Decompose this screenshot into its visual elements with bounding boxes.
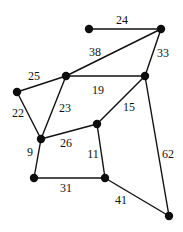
edge-weight-label: 26 <box>60 136 72 150</box>
weighted-graph-diagram: 243833251922231526911314162 <box>0 0 183 232</box>
edge-weight-label: 19 <box>92 83 104 97</box>
graph-node-n6 <box>37 135 45 143</box>
graph-node-n3 <box>62 72 70 80</box>
edge-weight-label: 33 <box>157 46 169 60</box>
graph-node-n1 <box>85 25 93 33</box>
graph-node-n9 <box>101 174 109 182</box>
edge-weight-label: 23 <box>59 101 71 115</box>
edge-weight-label: 38 <box>89 45 101 59</box>
graph-node-n7 <box>93 120 101 128</box>
edge-n5-n10 <box>145 76 169 216</box>
graph-node-n2 <box>157 25 165 33</box>
edge-weight-label: 15 <box>123 100 135 114</box>
edge-weight-label: 31 <box>60 181 72 195</box>
edge-weight-label: 9 <box>27 145 33 159</box>
edge-weight-label: 11 <box>87 147 99 161</box>
edge-n6-n8 <box>34 139 41 178</box>
edge-weight-label: 62 <box>162 147 174 161</box>
edge-n5-n7 <box>97 76 145 124</box>
edge-n4-n3 <box>17 76 66 92</box>
edge-weight-label: 24 <box>116 13 128 27</box>
edge-weight-label: 22 <box>12 106 24 120</box>
edge-weight-label: 25 <box>28 69 40 83</box>
graph-node-n4 <box>13 88 21 96</box>
edge-weight-label: 41 <box>115 193 127 207</box>
graph-node-n10 <box>165 212 173 220</box>
graph-node-n8 <box>30 174 38 182</box>
graph-node-n5 <box>141 72 149 80</box>
